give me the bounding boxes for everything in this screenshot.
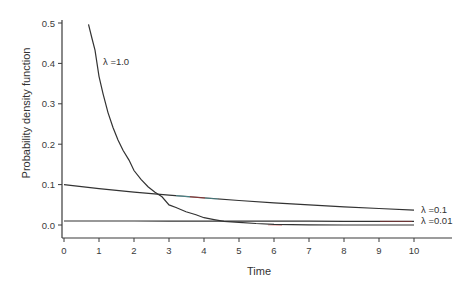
x-tick-label: 2 [131,245,136,256]
x-tick-label: 1 [96,245,101,256]
y-tick-label: 0.2 [42,139,55,150]
x-tick-label: 6 [271,245,276,256]
y-tick-label: 0.4 [42,58,55,69]
x-tick-label: 3 [166,245,171,256]
x-tick-label: 5 [236,245,241,256]
y-tick-label: 0.0 [42,220,55,231]
x-tick-label: 10 [409,245,420,256]
x-ticks: 0 1 2 3 4 5 6 7 8 9 10 [61,238,419,256]
x-tick-label: 9 [376,245,381,256]
color-artifact [176,196,190,197]
color-artifact [190,197,205,198]
y-ticks: 0.0 0.1 0.2 0.3 0.4 0.5 [42,18,62,231]
x-tick-label: 7 [306,245,311,256]
curve-lambda-1.0 [89,24,415,225]
y-axis-label: Probability density function [20,48,32,179]
curve-lambda-0.1 [64,185,414,211]
x-tick-label: 4 [201,245,206,256]
x-axis-label: Time [247,265,271,277]
color-artifact [205,198,218,199]
annotation-lambda-0.1: λ =0.1 [421,204,447,215]
annotation-lambda-0.01: λ =0.01 [421,215,452,226]
x-tick-label: 8 [341,245,346,256]
pdf-chart: 0.0 0.1 0.2 0.3 0.4 0.5 0 1 2 3 4 5 6 7 … [0,0,472,284]
x-tick-label: 0 [61,245,66,256]
annotation-lambda-1.0: λ =1.0 [103,56,129,67]
y-tick-label: 0.1 [42,179,55,190]
y-tick-label: 0.5 [42,18,55,29]
y-tick-label: 0.3 [42,98,55,109]
